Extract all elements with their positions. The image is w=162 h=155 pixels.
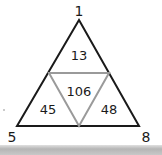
region-value-top: 13 xyxy=(71,48,88,63)
triangle-diagram: 1 5 8 13 106 45 48 xyxy=(0,0,162,155)
inner-triangle xyxy=(49,73,109,126)
corner-label-bottom-right: 8 xyxy=(142,129,151,145)
region-value-right: 48 xyxy=(101,102,118,117)
bottom-shadow-band xyxy=(0,145,162,155)
corner-label-bottom-left: 5 xyxy=(8,129,17,145)
stray-dot xyxy=(3,109,5,111)
region-value-left: 45 xyxy=(40,102,57,117)
region-value-center: 106 xyxy=(67,84,92,99)
corner-label-top: 1 xyxy=(75,3,84,19)
